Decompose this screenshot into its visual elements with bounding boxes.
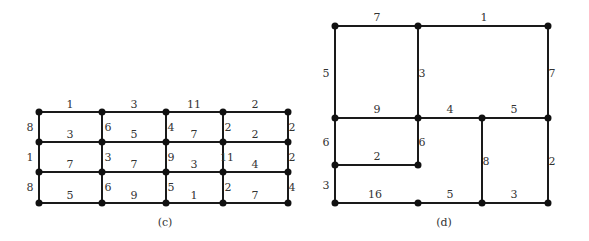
vertex-dot <box>220 169 227 176</box>
vertex-dot <box>163 139 170 146</box>
vertex-dot <box>479 200 486 207</box>
edge-weight-label: 5 <box>447 188 454 201</box>
edge-weight-label: 3 <box>419 67 426 80</box>
vertex-dot <box>332 23 339 30</box>
edge-weight-label: 3 <box>511 188 518 201</box>
weighted-grid-graphs-figure: 131123572773459178642213911286524 (c) 71… <box>0 0 589 241</box>
edge-weight-label: 8 <box>27 181 34 194</box>
edge-weight-label: 7 <box>191 128 198 141</box>
edge-weight-label: 2 <box>252 98 259 111</box>
vertex-dot <box>415 200 422 207</box>
edge-weight-label: 5 <box>67 189 74 202</box>
vertex-dot <box>415 162 422 169</box>
edge-weight-label: 3 <box>191 158 198 171</box>
vertex-dot <box>545 115 552 122</box>
edge-weight-label: 2 <box>252 128 259 141</box>
vertex-dot <box>99 200 106 207</box>
vertex-dot <box>220 109 227 116</box>
edge-weight-label: 8 <box>27 121 34 134</box>
vertex-dot <box>285 200 292 207</box>
edge-weight-label: 2 <box>289 121 296 134</box>
edge-weight-label: 2 <box>289 151 296 164</box>
vertex-dot <box>285 139 292 146</box>
vertex-dot <box>220 200 227 207</box>
vertex-dot <box>163 169 170 176</box>
vertex-dot <box>285 169 292 176</box>
edge-weight-label: 7 <box>549 67 556 80</box>
vertex-dot <box>99 109 106 116</box>
vertex-dot <box>545 23 552 30</box>
vertex-dot <box>220 139 227 146</box>
edge-weight-label: 3 <box>131 98 138 111</box>
edge-weight-label: 2 <box>374 150 381 163</box>
vertex-dot <box>163 109 170 116</box>
graph-c: 131123572773459178642213911286524 (c) <box>27 98 296 229</box>
edge-weight-label: 5 <box>323 67 330 80</box>
vertex-dot <box>36 169 43 176</box>
edge-weight-label: 4 <box>289 181 296 194</box>
edge-weight-label: 5 <box>131 128 138 141</box>
edge-weight-label: 6 <box>105 181 112 194</box>
graph-d-nodes <box>332 23 552 207</box>
vertex-dot <box>163 200 170 207</box>
vertex-dot <box>415 115 422 122</box>
vertex-dot <box>99 139 106 146</box>
edge-weight-label: 9 <box>374 103 381 116</box>
vertex-dot <box>36 139 43 146</box>
edge-weight-label: 6 <box>323 136 330 149</box>
edge-weight-label: 16 <box>368 188 382 201</box>
vertex-dot <box>332 200 339 207</box>
edge-weight-label: 9 <box>131 189 138 202</box>
edge-weight-label: 5 <box>168 181 175 194</box>
edge-weight-label: 4 <box>168 121 175 134</box>
edge-weight-label: 2 <box>225 181 232 194</box>
edge-weight-label: 9 <box>168 151 175 164</box>
edge-weight-label: 3 <box>67 128 74 141</box>
vertex-dot <box>36 109 43 116</box>
vertex-dot <box>479 115 486 122</box>
edge-weight-label: 11 <box>187 98 201 111</box>
edge-weight-label: 6 <box>419 136 426 149</box>
edge-weight-label: 1 <box>27 151 34 164</box>
edge-weight-label: 1 <box>67 98 74 111</box>
edge-weight-label: 2 <box>549 155 556 168</box>
edge-weight-label: 8 <box>483 155 490 168</box>
edge-weight-label: 1 <box>191 189 198 202</box>
edge-weight-label: 7 <box>374 11 381 24</box>
edge-weight-label: 7 <box>252 189 259 202</box>
vertex-dot <box>285 109 292 116</box>
graph-c-edge-weights: 131123572773459178642213911286524 <box>27 98 296 202</box>
graph-d: 715379456628231653 (d) <box>323 11 556 229</box>
edge-weight-label: 1 <box>481 11 488 24</box>
edge-weight-label: 2 <box>225 121 232 134</box>
edge-weight-label: 5 <box>511 103 518 116</box>
vertex-dot <box>99 169 106 176</box>
edge-weight-label: 7 <box>131 158 138 171</box>
graph-d-caption: (d) <box>436 216 452 229</box>
vertex-dot <box>36 200 43 207</box>
edge-weight-label: 4 <box>252 158 259 171</box>
edge-weight-label: 11 <box>220 151 234 164</box>
vertex-dot <box>545 200 552 207</box>
graph-c-caption: (c) <box>158 216 173 229</box>
vertex-dot <box>415 23 422 30</box>
edge-weight-label: 7 <box>67 158 74 171</box>
edge-weight-label: 4 <box>447 103 454 116</box>
graph-d-edge-weights: 715379456628231653 <box>323 11 556 201</box>
vertex-dot <box>332 162 339 169</box>
edge-weight-label: 3 <box>105 151 112 164</box>
edge-weight-label: 3 <box>323 179 330 192</box>
vertex-dot <box>332 115 339 122</box>
edge-weight-label: 6 <box>105 121 112 134</box>
